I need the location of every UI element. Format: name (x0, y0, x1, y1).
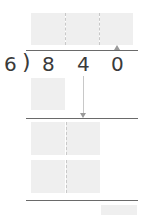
subtraction-line-1 (26, 118, 138, 119)
product-box-2-tens[interactable] (31, 160, 65, 193)
product-2-divider (66, 160, 67, 193)
dividend-digit-ones: 0 (111, 54, 124, 74)
quotient-box-ones[interactable] (100, 13, 133, 45)
division-bar (26, 50, 138, 51)
final-remainder-box[interactable] (101, 205, 137, 215)
dividend-digit-hundreds: 8 (42, 54, 55, 74)
remainder-divider (66, 122, 67, 155)
quotient-box-hundreds[interactable] (31, 13, 65, 45)
subtraction-line-2 (26, 200, 138, 201)
quotient-box-tens[interactable] (66, 13, 99, 45)
remainder-box-tens[interactable] (31, 122, 65, 155)
divisor: 6 (4, 54, 17, 74)
quotient-divider (99, 13, 100, 45)
quotient-divider (65, 13, 66, 45)
division-bracket: ) (22, 51, 31, 73)
bring-down-line (83, 76, 84, 114)
dividend-digit-tens: 4 (77, 54, 90, 74)
product-box-2-ones[interactable] (66, 160, 100, 193)
remainder-box-ones[interactable] (66, 122, 100, 155)
product-box-1[interactable] (31, 78, 65, 110)
